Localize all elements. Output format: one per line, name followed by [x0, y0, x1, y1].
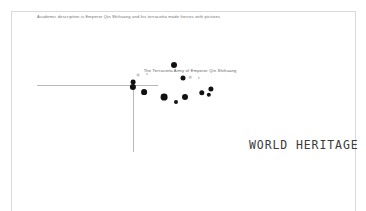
scatter-point[interactable] [189, 76, 192, 79]
x-axis-line [37, 85, 158, 86]
scatter-point[interactable] [174, 100, 178, 104]
scatter-point[interactable] [199, 90, 204, 95]
scatter-point[interactable] [182, 94, 188, 100]
world-heritage-wordmark: WORLD HERITAGE [249, 138, 359, 152]
chart-title: The Terracotta Army of Emperor Qin Shihu… [144, 68, 237, 74]
scatter-point[interactable] [208, 86, 213, 91]
scatter-point[interactable] [137, 74, 140, 77]
scatter-point[interactable] [207, 93, 211, 97]
scatter-plot[interactable]: The Terracotta Army of Emperor Qin Shihu… [0, 0, 366, 211]
y-axis-line [133, 85, 134, 152]
scatter-point[interactable] [161, 94, 168, 101]
scatter-point[interactable] [181, 76, 186, 81]
scatter-point[interactable] [198, 77, 200, 79]
scatter-point[interactable] [141, 89, 147, 95]
scatter-point[interactable] [130, 84, 136, 90]
